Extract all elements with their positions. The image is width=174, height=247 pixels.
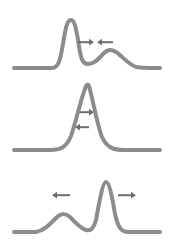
arrow-right-icon	[80, 109, 94, 116]
arrow-left-icon	[97, 39, 113, 46]
panel-2-canvas	[0, 82, 174, 165]
panel-1-canvas	[0, 0, 174, 83]
wave-curve-approaching	[14, 20, 160, 68]
panel-pulses-approaching	[0, 0, 174, 83]
wave-superposition-figure	[0, 0, 174, 247]
wave-curve-overlapping	[14, 85, 160, 151]
panel-pulses-overlapping	[0, 82, 174, 165]
arrow-left-icon	[52, 192, 70, 199]
panel-pulses-separating	[0, 164, 174, 247]
panel-3-canvas	[0, 164, 174, 247]
arrow-right-icon	[118, 192, 136, 199]
wave-curve-separating	[14, 182, 160, 232]
arrow-left-icon	[75, 124, 89, 131]
